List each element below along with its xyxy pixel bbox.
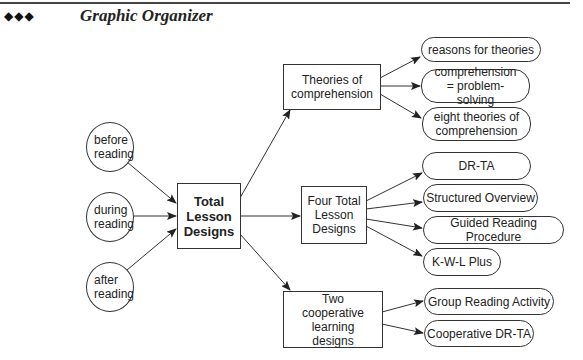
leaf-node-cooperative-dr-ta: Cooperative DR-TA <box>424 320 534 347</box>
node-label: Guided Reading Procedure <box>424 216 563 244</box>
node-label: Four Total Lesson Designs <box>306 194 362 236</box>
node-label: during reading <box>94 203 134 231</box>
node-label: DR-TA <box>459 159 495 173</box>
node-label: comprehension = problem-solving <box>430 65 521 107</box>
center-node-total-lesson-designs: Total Lesson Designs <box>177 183 241 249</box>
leaf-node-eight-theories: eight theories of comprehension <box>422 107 531 141</box>
leaf-node-guided-reading-procedure: Guided Reading Procedure <box>423 216 564 244</box>
leaf-node-comprehension-problem-solving: comprehension = problem-solving <box>421 69 530 103</box>
branch-node-two-cooperative: Two cooperative learning designs <box>283 291 383 348</box>
node-label: Two cooperative learning designs <box>290 292 376 348</box>
leaf-node-structured-overview: Structured Overview <box>423 184 538 212</box>
node-label: K-W-L Plus <box>432 255 492 269</box>
node-label: Theories of comprehension <box>291 73 373 101</box>
leaf-node-kwl-plus: K-W-L Plus <box>423 248 501 276</box>
input-node-after-reading: after reading <box>86 262 134 312</box>
leaf-node-group-reading-activity: Group Reading Activity <box>424 288 554 315</box>
branch-node-theories: Theories of comprehension <box>283 64 381 110</box>
leaf-node-dr-ta: DR-TA <box>422 152 531 180</box>
node-label: Group Reading Activity <box>428 295 550 309</box>
input-node-before-reading: before reading <box>86 122 134 172</box>
node-label: Structured Overview <box>426 191 535 205</box>
node-label: after reading <box>94 273 134 301</box>
branch-node-four-total: Four Total Lesson Designs <box>301 186 367 244</box>
node-label: eight theories of comprehension <box>431 110 522 138</box>
leaf-node-reasons-for-theories: reasons for theories <box>421 37 541 62</box>
input-node-during-reading: during reading <box>86 192 134 242</box>
node-label: Total Lesson Designs <box>182 194 236 239</box>
node-label: before reading <box>94 133 134 161</box>
node-label: reasons for theories <box>428 43 534 57</box>
node-label: Cooperative DR-TA <box>427 327 531 341</box>
